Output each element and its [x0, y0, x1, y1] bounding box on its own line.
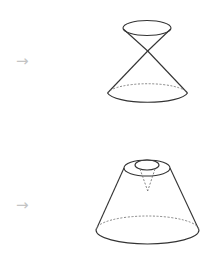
frustum-top-ellipse — [124, 160, 170, 176]
bottom-cone-base-front — [108, 93, 188, 102]
frustum-base-front — [96, 230, 199, 244]
bottom-cone-base-back — [108, 84, 188, 93]
shapes-canvas — [0, 0, 210, 269]
frustum-base-back — [96, 216, 199, 230]
top-cone-base — [123, 21, 171, 36]
double-cone-figure — [108, 21, 188, 103]
hole-ellipse — [135, 160, 159, 170]
frustum-with-hole-figure — [96, 160, 199, 244]
hidden-cone-lines — [140, 169, 155, 191]
